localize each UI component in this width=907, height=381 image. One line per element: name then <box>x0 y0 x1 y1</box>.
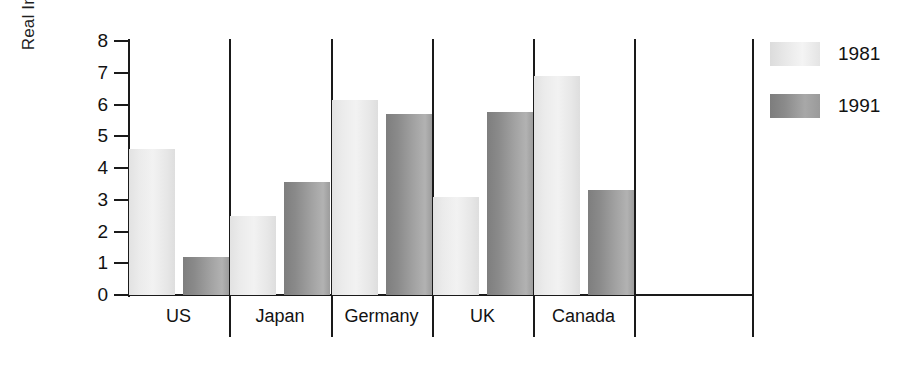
y-tick-3 <box>114 199 128 201</box>
y-tick-label-0: 0 <box>84 285 108 304</box>
bar-germany-1981 <box>332 100 378 295</box>
bar-chart: Real Interest Rate 876543210 USJapanGerm… <box>0 0 907 381</box>
legend-swatch-1991-icon <box>770 94 820 118</box>
y-tick-1 <box>114 262 128 264</box>
bar-uk-1991 <box>487 112 533 295</box>
legend-item-1981: 1981 <box>770 38 900 90</box>
y-tick-label-wrap-6: 6 <box>62 95 108 114</box>
category-label-germany: Germany <box>331 302 432 330</box>
y-tick-label-1: 1 <box>84 253 108 272</box>
y-tick-label-wrap-2: 2 <box>62 222 108 241</box>
y-tick-label-7: 7 <box>84 63 108 82</box>
category-label-japan: Japan <box>229 302 331 330</box>
bar-japan-1991 <box>284 182 330 295</box>
legend-item-1991: 1991 <box>770 90 900 142</box>
y-tick-label-wrap-7: 7 <box>62 63 108 82</box>
bar-uk-1981 <box>433 197 479 295</box>
legend: 1981 1991 <box>770 38 900 142</box>
category-label-uk: UK <box>432 302 533 330</box>
y-tick-7 <box>114 72 128 74</box>
group-separator-6 <box>752 39 754 337</box>
category-label-canada: Canada <box>533 302 634 330</box>
y-tick-label-3: 3 <box>84 190 108 209</box>
legend-swatch-1981-icon <box>770 42 820 66</box>
group-separator-5 <box>634 39 636 337</box>
y-tick-label-wrap-1: 1 <box>62 253 108 272</box>
y-tick-label-wrap-8: 8 <box>62 31 108 50</box>
y-tick-8 <box>114 40 128 42</box>
bar-us-1991 <box>183 257 229 295</box>
y-tick-label-wrap-4: 4 <box>62 158 108 177</box>
y-tick-6 <box>114 104 128 106</box>
legend-label-1991: 1991 <box>838 90 880 122</box>
bar-canada-1991 <box>588 190 634 295</box>
y-tick-label-6: 6 <box>84 95 108 114</box>
y-tick-label-wrap-0: 0 <box>62 285 108 304</box>
y-tick-label-4: 4 <box>84 158 108 177</box>
y-tick-4 <box>114 167 128 169</box>
legend-label-1981: 1981 <box>838 38 880 70</box>
y-tick-5 <box>114 135 128 137</box>
y-tick-label-8: 8 <box>84 31 108 50</box>
bar-germany-1991 <box>386 114 432 295</box>
category-label-us: US <box>128 302 229 330</box>
bar-japan-1981 <box>230 216 276 295</box>
y-tick-label-5: 5 <box>84 126 108 145</box>
y-tick-label-wrap-3: 3 <box>62 190 108 209</box>
y-tick-label-2: 2 <box>84 222 108 241</box>
bar-us-1981 <box>129 149 175 295</box>
y-tick-0 <box>114 294 128 296</box>
y-tick-2 <box>114 231 128 233</box>
bar-canada-1981 <box>534 76 580 295</box>
y-tick-label-wrap-5: 5 <box>62 126 108 145</box>
